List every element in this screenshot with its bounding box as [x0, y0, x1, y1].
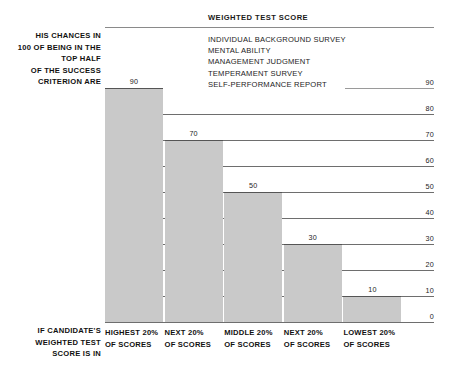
chart-title: WEIGHTED TEST SCORE	[208, 13, 308, 22]
x-axis-category-name: NEXT 20%	[165, 327, 212, 339]
legend-entry: INDIVIDUAL BACKGROUND SURVEY	[208, 34, 346, 45]
x-axis-category-name: NEXT 20%	[284, 327, 331, 339]
gridline	[345, 88, 434, 89]
x-axis-category-label: MIDDLE 20%OF SCORES	[224, 327, 272, 350]
x-axis-category-name: MIDDLE 20%	[224, 327, 272, 339]
y-axis-tick-label: 90	[412, 78, 434, 87]
bar-value-label: 70	[165, 129, 223, 138]
x-axis-category-name: HIGHEST 20%	[105, 327, 158, 339]
y-axis-tick-label: 20	[412, 260, 434, 269]
y-axis-caption-top-line: CRITERION ARE	[4, 76, 101, 88]
bar-value-label: 10	[343, 285, 401, 294]
x-axis-category-sublabel: OF SCORES	[224, 339, 272, 351]
bar	[284, 244, 342, 322]
x-axis-category-name: LOWEST 20%	[343, 327, 395, 339]
y-axis-caption-top-line: OF THE SUCCESS	[4, 65, 101, 77]
x-axis-category-label: NEXT 20%OF SCORES	[284, 327, 331, 350]
bar-value-label: 30	[284, 233, 342, 242]
bar-top-edge	[224, 192, 282, 193]
y-axis-tick-label: 70	[412, 130, 434, 139]
x-axis-category-sublabel: OF SCORES	[284, 339, 331, 351]
x-axis-category-sublabel: OF SCORES	[165, 339, 212, 351]
y-axis-caption-top-line: HIS CHANCES IN	[4, 30, 101, 42]
x-axis-caption-bottom-line: WEIGHTED TEST	[4, 337, 101, 349]
y-axis-caption-top: HIS CHANCES IN 100 OF BEING IN THE TOP H…	[4, 30, 101, 88]
x-axis-category-label: NEXT 20%OF SCORES	[165, 327, 212, 350]
y-axis-tick-label: 80	[412, 104, 434, 113]
bar	[343, 296, 401, 322]
y-axis-tick-label: 50	[412, 182, 434, 191]
y-axis-tick-label: 10	[412, 286, 434, 295]
y-axis-tick-label: 30	[412, 234, 434, 243]
legend-entry: MANAGEMENT JUDGMENT	[208, 56, 346, 67]
chart-figure: WEIGHTED TEST SCORE HIS CHANCES IN 100 O…	[0, 0, 462, 371]
y-axis-caption-top-line: 100 OF BEING IN THE	[4, 42, 101, 54]
x-axis-caption-bottom-line: SCORE IS IN	[4, 348, 101, 360]
x-axis-category-sublabel: OF SCORES	[105, 339, 158, 351]
bar-top-edge	[284, 244, 342, 245]
bar-value-label: 50	[224, 181, 282, 190]
title-divider	[105, 27, 434, 28]
x-axis-category-label: LOWEST 20%OF SCORES	[343, 327, 395, 350]
bar-top-edge	[105, 88, 163, 89]
x-axis-category-sublabel: OF SCORES	[343, 339, 395, 351]
x-axis-category-label: HIGHEST 20%OF SCORES	[105, 327, 158, 350]
bar-top-edge	[165, 140, 223, 141]
legend-entry: MENTAL ABILITY	[208, 45, 346, 56]
legend-entry: TEMPERAMENT SURVEY	[208, 68, 346, 79]
bar	[165, 140, 223, 322]
legend-entry: SELF-PERFORMANCE REPORT	[208, 79, 346, 90]
x-axis-caption-bottom: IF CANDIDATE'S WEIGHTED TEST SCORE IS IN	[4, 325, 101, 360]
bar-top-edge	[343, 296, 401, 297]
y-axis-tick-label: 0	[412, 312, 434, 321]
x-axis-caption-bottom-line: IF CANDIDATE'S	[4, 325, 101, 337]
chart-legend: INDIVIDUAL BACKGROUND SURVEY MENTAL ABIL…	[208, 34, 346, 90]
gridline	[105, 322, 434, 323]
y-axis-caption-top-line: TOP HALF	[4, 53, 101, 65]
bar	[224, 192, 282, 322]
bar-value-label: 90	[105, 77, 163, 86]
y-axis-tick-label: 40	[412, 208, 434, 217]
bar	[105, 88, 163, 322]
y-axis-tick-label: 60	[412, 156, 434, 165]
